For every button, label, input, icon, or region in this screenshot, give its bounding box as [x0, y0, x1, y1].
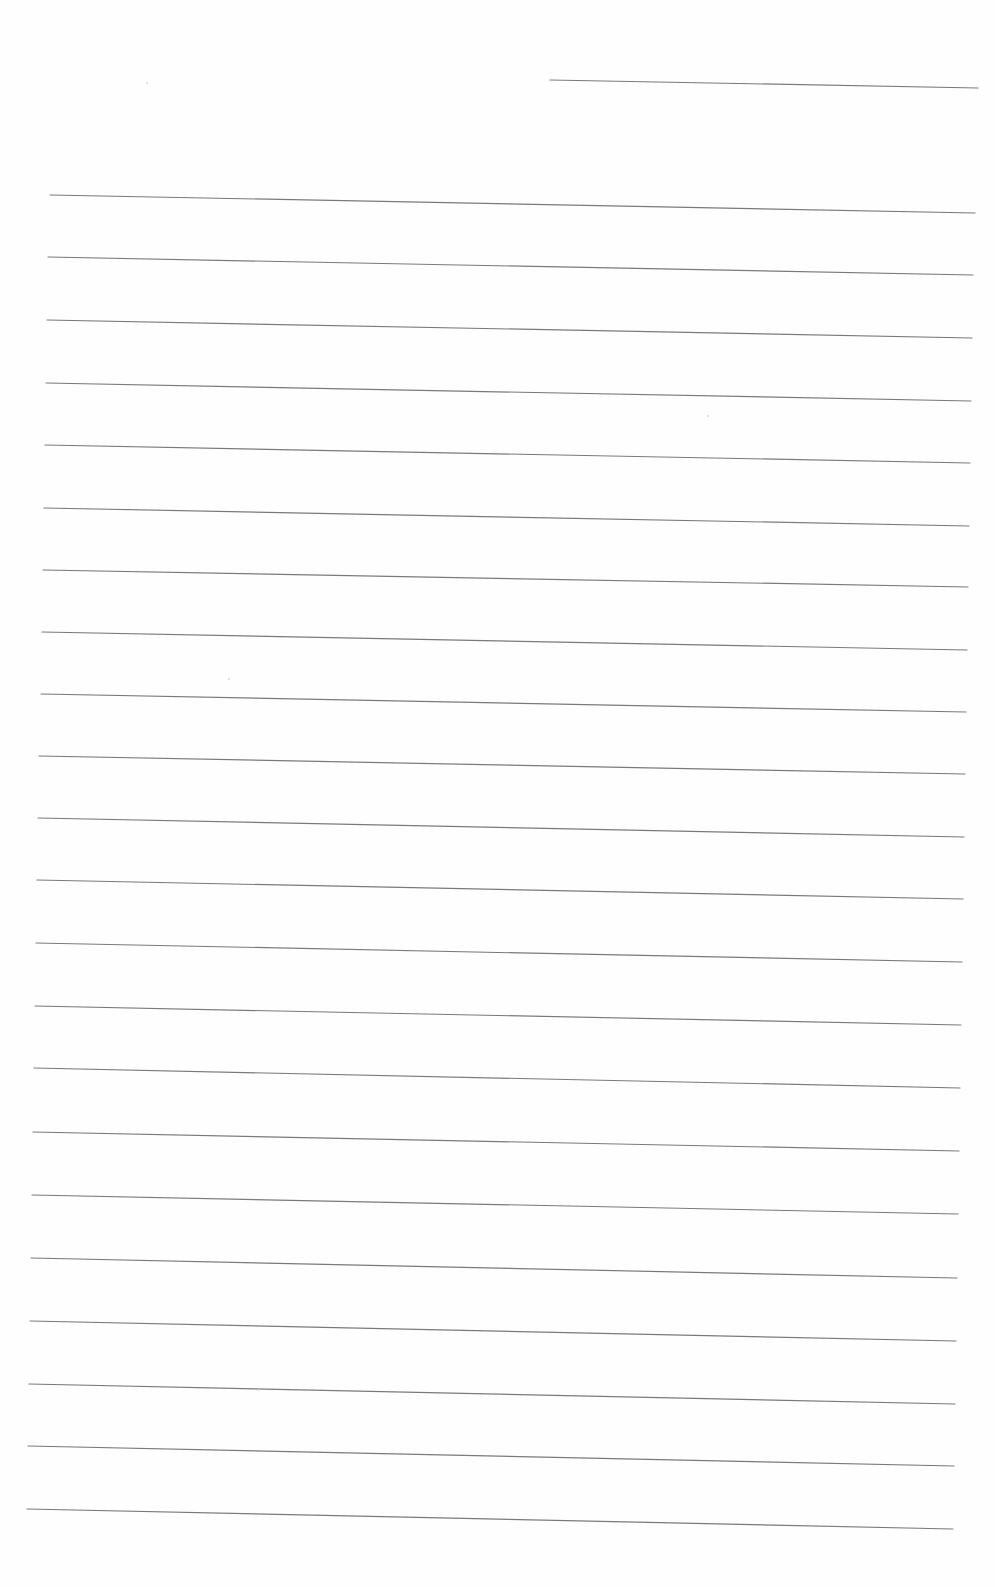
ruled-line [42, 632, 967, 650]
ruled-line [29, 1384, 955, 1404]
ruled-line [48, 257, 973, 275]
ruled-line-group [27, 195, 975, 1529]
ruled-line [43, 570, 968, 587]
ruled-line [32, 1195, 958, 1214]
ruled-line [47, 320, 972, 338]
ruled-line [34, 1068, 960, 1088]
ruled-line [37, 880, 963, 899]
ruled-line [38, 818, 964, 837]
ruled-line [28, 1446, 954, 1466]
paper-speck [228, 678, 230, 680]
ruled-line [27, 1509, 953, 1529]
ruled-line [30, 1321, 956, 1341]
lined-paper-sheet [0, 0, 995, 1587]
ruled-line [36, 943, 962, 962]
paper-speck [258, 1389, 260, 1391]
ruled-line [45, 445, 970, 463]
ruled-line [35, 1006, 961, 1025]
ruled-lines [0, 0, 995, 1587]
ruled-line [31, 1258, 957, 1278]
ruled-line [44, 508, 969, 526]
ruled-line [41, 694, 966, 712]
ruled-line [39, 756, 965, 774]
paper-speck [707, 415, 709, 417]
ruled-line [33, 1132, 959, 1151]
ruled-line [46, 383, 971, 401]
ruled-line [50, 195, 975, 213]
paper-speck [146, 82, 148, 84]
header-line [550, 80, 978, 88]
